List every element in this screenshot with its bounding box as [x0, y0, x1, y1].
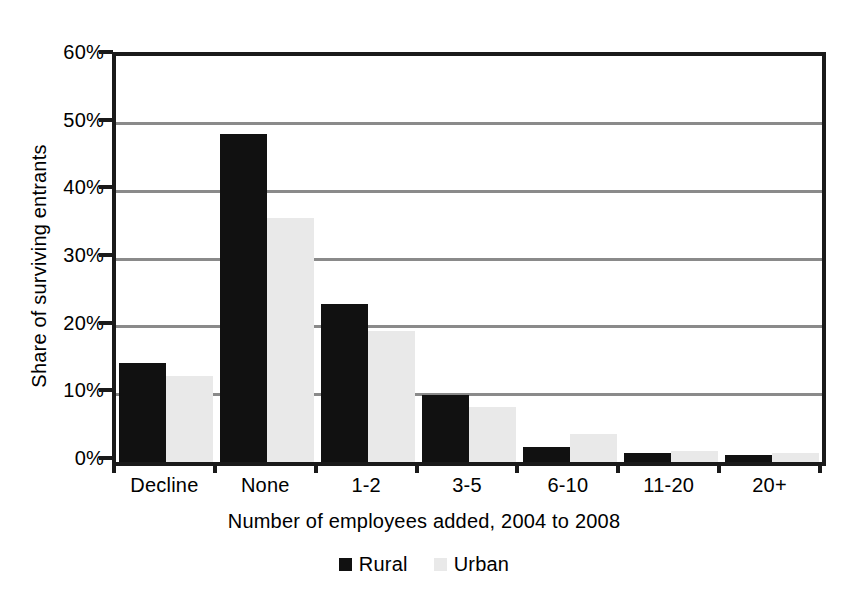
bar-group-20- — [725, 56, 819, 462]
bar-rural-1-2 — [321, 304, 368, 462]
bar-group-3-5 — [422, 56, 516, 462]
bar-group-decline — [119, 56, 213, 462]
x-tick-label-3-5: 3-5 — [452, 474, 482, 497]
bar-urban-20- — [772, 453, 819, 462]
bar-rural-decline — [119, 363, 166, 462]
y-tickmark-10 — [99, 388, 113, 392]
legend-entry-rural: Rural — [339, 553, 408, 576]
legend-swatch-urban-icon — [434, 558, 447, 571]
x-tickmark-3 — [415, 462, 419, 473]
bar-rural-none — [220, 134, 267, 462]
y-tick-label-40: 40% — [63, 176, 104, 199]
bars-layer — [116, 56, 822, 462]
x-tickmark-7 — [818, 462, 822, 473]
x-tickmark-2 — [314, 462, 318, 473]
bar-rural-11-20 — [624, 453, 671, 462]
y-tickmark-30 — [99, 253, 113, 257]
bar-rural-20- — [725, 455, 772, 462]
y-tick-label-60: 60% — [63, 41, 104, 64]
bar-urban-1-2 — [368, 331, 415, 462]
x-axis-tick-labels: DeclineNone1-23-56-1011-2020+ — [112, 474, 822, 504]
x-axis-tickmarks — [112, 462, 822, 474]
x-tick-label-none: None — [241, 474, 290, 497]
x-tick-label-20-: 20+ — [752, 474, 787, 497]
bar-group-6-10 — [523, 56, 617, 462]
x-tick-label-6-10: 6-10 — [547, 474, 588, 497]
legend-swatch-rural-icon — [339, 558, 352, 571]
x-tick-label-11-20: 11-20 — [643, 474, 694, 497]
y-tickmark-50 — [99, 118, 113, 122]
x-tickmark-5 — [616, 462, 620, 473]
y-tick-label-10: 10% — [63, 379, 104, 402]
bar-urban-11-20 — [671, 451, 718, 462]
bar-group-none — [220, 56, 314, 462]
y-tick-label-50: 50% — [63, 108, 104, 131]
y-tick-label-30: 30% — [63, 244, 104, 267]
bar-chart-figure: Share of surviving entrants 0%10%20%30%4… — [0, 0, 848, 605]
bar-group-1-2 — [321, 56, 415, 462]
x-tick-label-1-2: 1-2 — [351, 474, 381, 497]
bar-urban-6-10 — [570, 434, 617, 462]
bar-urban-3-5 — [469, 407, 516, 462]
x-tickmark-1 — [213, 462, 217, 473]
y-tickmark-20 — [99, 321, 113, 325]
bar-rural-3-5 — [422, 395, 469, 462]
y-axis-tick-labels: 0%10%20%30%40%50%60% — [42, 40, 104, 476]
x-axis-title: Number of employees added, 2004 to 2008 — [0, 510, 848, 533]
plot-area — [112, 52, 826, 466]
x-tick-label-decline: Decline — [130, 474, 198, 497]
y-tickmark-60 — [99, 50, 113, 54]
legend-label-rural: Rural — [359, 553, 408, 576]
bar-rural-6-10 — [523, 447, 570, 462]
y-tickmark-40 — [99, 185, 113, 189]
y-tickmark-0 — [99, 456, 113, 460]
chart-legend: RuralUrban — [0, 553, 848, 576]
plot-inner — [116, 56, 822, 462]
legend-label-urban: Urban — [454, 553, 509, 576]
bar-urban-none — [267, 218, 314, 462]
x-tickmark-0 — [112, 462, 116, 473]
bar-group-11-20 — [624, 56, 718, 462]
bar-urban-decline — [166, 376, 213, 462]
x-tickmark-6 — [717, 462, 721, 473]
y-tick-label-20: 20% — [63, 311, 104, 334]
legend-entry-urban: Urban — [434, 553, 509, 576]
x-tickmark-4 — [515, 462, 519, 473]
